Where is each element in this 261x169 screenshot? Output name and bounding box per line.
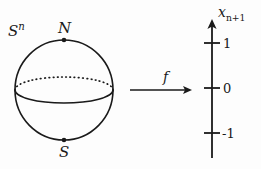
equator-front-solid [15, 90, 113, 103]
equator-back-dotted [15, 77, 113, 90]
axis-label-subscript: n+1 [226, 12, 246, 23]
sphere-outline [15, 40, 113, 140]
axis-tick-label-0: 0 [223, 82, 231, 95]
north-pole-point [62, 38, 67, 43]
sphere-name-label: Sn [8, 22, 25, 39]
axis-tick-label-1: 1 [223, 37, 231, 50]
figure-canvas [0, 0, 261, 169]
sphere-name-base: S [8, 22, 18, 40]
axis-label: xn+1 [218, 5, 245, 22]
south-pole-label: S [59, 145, 69, 160]
axis-tick-label-minus-1: -1 [222, 127, 235, 140]
sphere-to-axis-figure: Sn N S f xn+1 1 0 -1 [0, 0, 261, 169]
map-arrow-label: f [163, 70, 168, 84]
axis-label-base: x [218, 4, 226, 20]
south-pole-point [62, 138, 67, 143]
sphere-name-exponent: n [18, 21, 25, 32]
north-pole-label: N [58, 21, 71, 36]
